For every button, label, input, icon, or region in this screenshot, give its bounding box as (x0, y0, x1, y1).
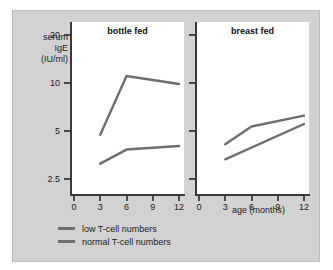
y-tick-left-2.5 (64, 178, 70, 180)
y-tick-left-5 (64, 130, 70, 132)
panel-title-breast-fed: breast fed (196, 26, 309, 36)
x-tick-left-12 (178, 196, 180, 201)
x-tick-left-6 (126, 196, 128, 201)
plot-panel-breast-fed (196, 22, 309, 194)
x-tick-left-9 (152, 196, 154, 201)
panel-title-bottle-fed: bottle fed (71, 26, 184, 36)
x-tick-label-right-0: 0 (192, 202, 206, 212)
x-tick-right-6 (251, 196, 253, 201)
figure-root: serum IgE (IU/ml) age (months) bottle fe… (0, 0, 333, 270)
y-tick-right-10 (189, 82, 195, 84)
x-tick-right-9 (277, 196, 279, 201)
x-tick-label-left-6: 6 (120, 202, 134, 212)
legend-label-low-t-cell: low T-cell numbers (82, 224, 157, 234)
y-axis-title-line-3: (IU/ml) (16, 54, 68, 65)
y-tick-left-20 (64, 34, 70, 36)
y-tick-left-10 (64, 82, 70, 84)
y-axis-left (70, 22, 72, 196)
y-tick-right-2.5 (189, 178, 195, 180)
x-tick-label-right-9: 9 (271, 202, 285, 212)
x-tick-label-left-0: 0 (67, 202, 81, 212)
x-tick-label-left-12: 12 (172, 202, 186, 212)
chart-legend: low T-cell numbers normal T-cell numbers (58, 222, 171, 248)
x-tick-label-right-3: 3 (218, 202, 232, 212)
y-axis-title-line-2: IgE (16, 43, 68, 54)
y-tick-label-10: 10 (34, 78, 60, 88)
x-tick-left-3 (99, 196, 101, 201)
x-tick-label-right-12: 12 (297, 202, 311, 212)
legend-swatch-normal-t-cell (58, 240, 75, 243)
y-tick-right-20 (189, 34, 195, 36)
legend-swatch-low-t-cell (58, 227, 75, 230)
x-tick-left-0 (73, 196, 75, 201)
legend-item-normal-t-cell: normal T-cell numbers (58, 235, 171, 248)
x-tick-label-left-9: 9 (146, 202, 160, 212)
x-tick-right-0 (198, 196, 200, 201)
y-tick-label-2.5: 2.5 (34, 174, 60, 184)
x-tick-right-12 (303, 196, 305, 201)
x-tick-right-3 (224, 196, 226, 201)
legend-label-normal-t-cell: normal T-cell numbers (82, 237, 171, 247)
x-axis-left (70, 194, 185, 196)
x-axis-right (195, 194, 310, 196)
y-tick-label-5: 5 (34, 126, 60, 136)
y-tick-right-5 (189, 130, 195, 132)
y-tick-label-20: 20 (34, 30, 60, 40)
legend-item-low-t-cell: low T-cell numbers (58, 222, 171, 235)
y-axis-right (195, 22, 197, 196)
plot-panel-bottle-fed (71, 22, 184, 194)
x-tick-label-left-3: 3 (93, 202, 107, 212)
x-tick-label-right-6: 6 (245, 202, 259, 212)
